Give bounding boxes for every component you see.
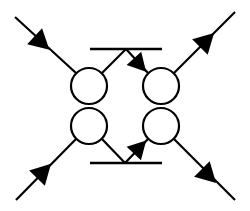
internal-lines — [102, 49, 148, 163]
internal-line-top-left-to-apex — [102, 49, 126, 73]
vertex-circle-top-right — [143, 68, 179, 104]
vertex-circle-top-left — [71, 68, 107, 104]
horizontal-bars — [90, 49, 162, 163]
internal-line-apex-to-top-right — [126, 49, 148, 73]
external-legs — [15, 12, 235, 200]
external-leg-incoming-top-left — [15, 17, 76, 73]
internal-line-apex-to-bottom-right — [125, 139, 148, 163]
vertex-circles — [71, 68, 179, 144]
internal-line-bottom-left-to-apex — [102, 139, 125, 163]
vertex-circle-bottom-left — [71, 108, 107, 144]
external-leg-outgoing-bottom-right — [174, 139, 235, 200]
external-leg-outgoing-top-right — [174, 12, 235, 73]
external-leg-incoming-bottom-left — [16, 139, 76, 200]
feynman-diagram — [0, 0, 250, 211]
arrow-icon — [194, 161, 216, 183]
vertex-circle-bottom-right — [143, 108, 179, 144]
arrow-icon — [127, 52, 146, 72]
